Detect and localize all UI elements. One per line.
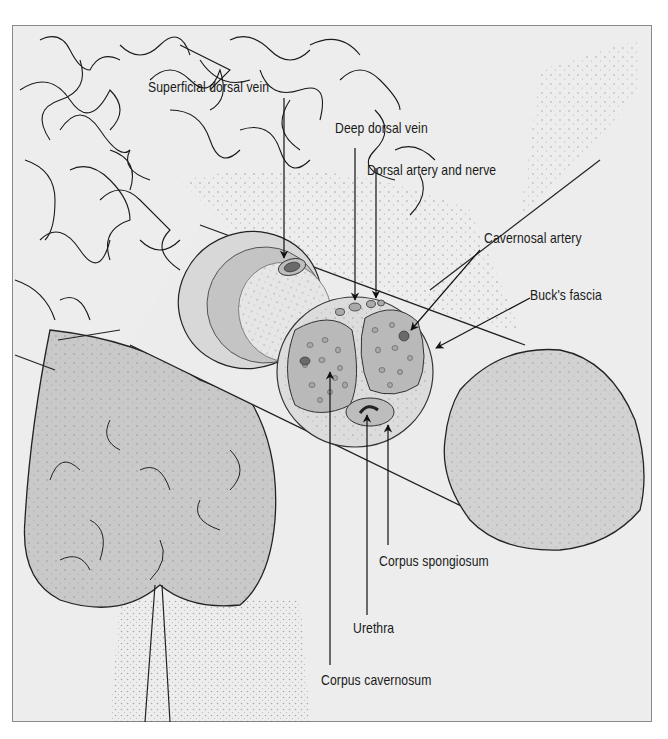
label-corpus-cavernosum: Corpus cavernosum — [321, 672, 431, 688]
label-dorsal-artery-and-nerve: Dorsal artery and nerve — [367, 162, 496, 178]
label-corpus-spongiosum: Corpus spongiosum — [379, 553, 489, 569]
corpus-spongiosum — [346, 398, 394, 426]
label-urethra: Urethra — [353, 620, 394, 636]
label-superficial-dorsal-vein: Superficial dorsal vein — [148, 79, 269, 95]
label-cavernosal-artery: Cavernosal artery — [484, 230, 582, 246]
glans — [444, 350, 644, 551]
anatomy-illustration — [0, 0, 668, 739]
label-bucks-fascia: Buck's fascia — [530, 287, 602, 303]
cross-section — [277, 297, 433, 447]
label-deep-dorsal-vein: Deep dorsal vein — [335, 120, 428, 136]
